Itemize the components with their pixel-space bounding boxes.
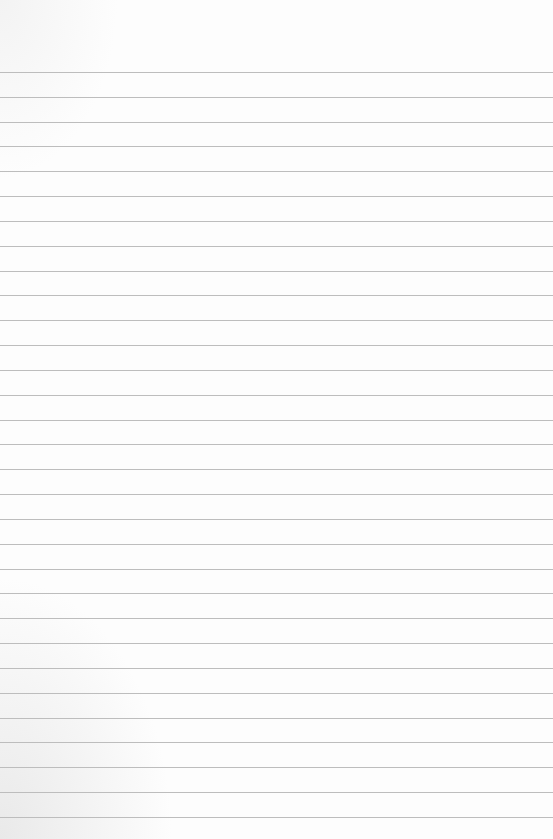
ruled-line <box>0 345 553 346</box>
ruled-line <box>0 593 553 594</box>
ruled-line <box>0 668 553 669</box>
ruled-line <box>0 494 553 495</box>
ruled-line <box>0 469 553 470</box>
ruled-line <box>0 271 553 272</box>
ruled-line <box>0 569 553 570</box>
ruled-line <box>0 767 553 768</box>
ruled-line <box>0 742 553 743</box>
ruled-line <box>0 370 553 371</box>
ruled-line <box>0 171 553 172</box>
ruled-line <box>0 544 553 545</box>
lined-paper-sheet <box>0 0 553 839</box>
ruled-line <box>0 395 553 396</box>
ruled-line <box>0 221 553 222</box>
ruled-line <box>0 295 553 296</box>
ruled-line <box>0 246 553 247</box>
ruled-line <box>0 718 553 719</box>
ruled-line <box>0 444 553 445</box>
ruled-line <box>0 792 553 793</box>
ruled-line <box>0 693 553 694</box>
ruled-line <box>0 618 553 619</box>
ruled-line <box>0 643 553 644</box>
ruled-line <box>0 420 553 421</box>
ruled-line <box>0 97 553 98</box>
ruled-line <box>0 196 553 197</box>
ruled-line <box>0 72 553 73</box>
ruled-line <box>0 817 553 818</box>
ruled-line <box>0 146 553 147</box>
ruled-line <box>0 519 553 520</box>
ruled-line <box>0 320 553 321</box>
ruled-line <box>0 122 553 123</box>
